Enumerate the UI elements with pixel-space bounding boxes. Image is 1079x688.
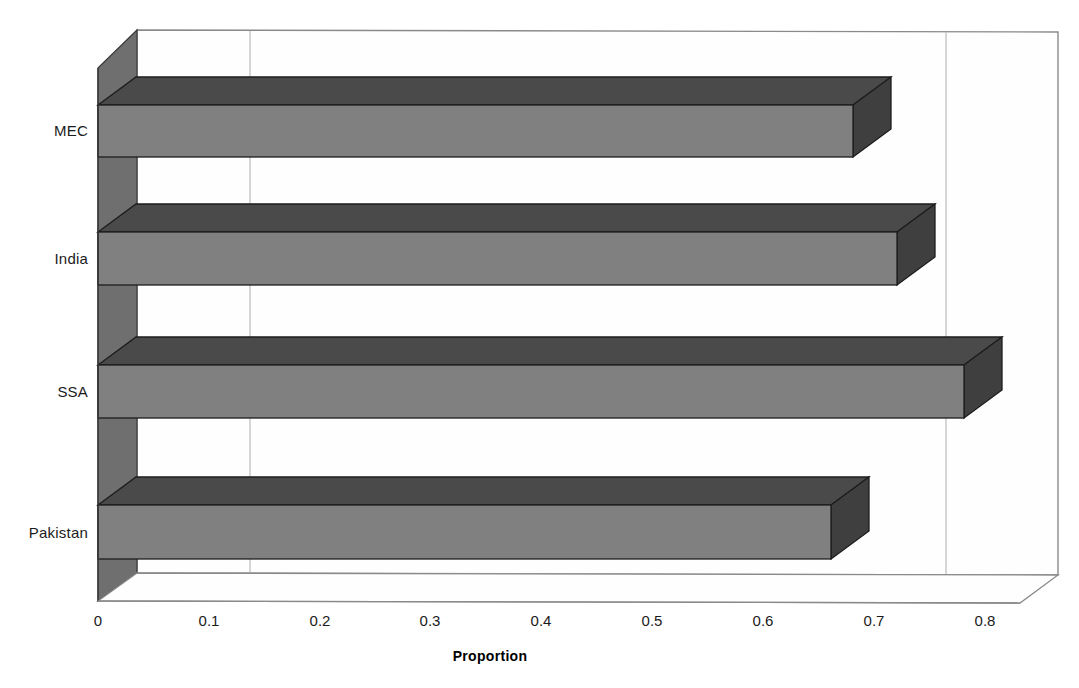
xtick-0.7: 0.7: [864, 612, 885, 629]
bar-india-front: [98, 232, 897, 285]
bar-ssa-top: [98, 337, 1002, 365]
xtick-0.2: 0.2: [310, 612, 331, 629]
bar-pakistan: [98, 477, 869, 559]
bar-india-top: [98, 204, 935, 232]
bar-mec: [98, 77, 891, 157]
bar-ssa-front: [98, 365, 964, 418]
bar-mec-front: [98, 105, 853, 157]
floor-plane: [98, 573, 1058, 603]
chart-figure: MEC India SSA Pakistan 0 0.1 0.2 0.3 0.4…: [0, 0, 1079, 688]
category-label-pakistan: Pakistan: [29, 524, 88, 541]
x-axis-title: Proportion: [453, 648, 528, 664]
category-label-ssa: SSA: [57, 383, 88, 400]
chart-svg-canvas: [0, 0, 1079, 688]
xtick-0.3: 0.3: [420, 612, 441, 629]
category-axis-labels: MEC India SSA Pakistan: [0, 0, 88, 688]
xtick-0.5: 0.5: [642, 612, 663, 629]
xtick-0.1: 0.1: [199, 612, 220, 629]
category-label-india: India: [54, 250, 88, 267]
xtick-0.6: 0.6: [753, 612, 774, 629]
bar-ssa: [98, 337, 1002, 418]
xtick-0: 0: [94, 612, 102, 629]
bar-india: [98, 204, 935, 285]
category-label-mec: MEC: [54, 122, 88, 139]
bar-pakistan-top: [98, 477, 869, 505]
bar-mec-top: [98, 77, 891, 105]
xtick-0.8: 0.8: [975, 612, 996, 629]
chart-plot-area: [0, 0, 1079, 688]
xtick-0.4: 0.4: [531, 612, 552, 629]
bar-pakistan-front: [98, 505, 831, 559]
